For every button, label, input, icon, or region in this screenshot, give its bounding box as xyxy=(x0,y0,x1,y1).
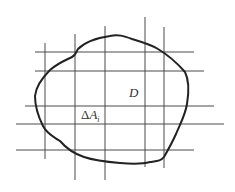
region-label-d: D xyxy=(128,85,139,100)
diagram-canvas: D ΔAi xyxy=(0,0,235,192)
area-variable: A xyxy=(88,107,97,122)
vertical-grid-lines xyxy=(45,17,164,180)
delta-symbol: Δ xyxy=(81,107,89,122)
region-label-text: D xyxy=(128,85,139,100)
horizontal-grid-lines xyxy=(16,52,224,150)
double-integral-region-diagram: D ΔAi xyxy=(0,0,235,192)
cell-area-label: ΔAi xyxy=(81,107,100,124)
cell-index-subscript: i xyxy=(97,115,99,124)
region-boundary-curve xyxy=(35,35,188,163)
